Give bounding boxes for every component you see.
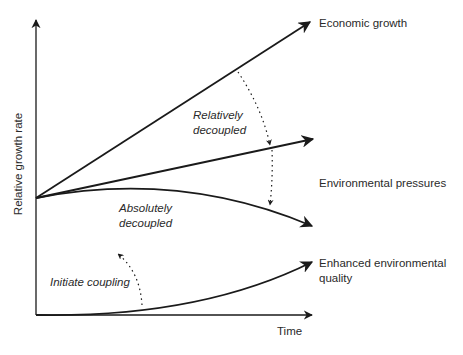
x-axis-label: Time <box>277 324 302 339</box>
relatively-decoupled-label-line2: decoupled <box>193 123 246 138</box>
enhanced-quality-label-line2: quality <box>319 271 352 286</box>
relative-pressure-curve <box>36 139 313 198</box>
economic-growth-label: Economic growth <box>319 16 407 31</box>
y-axis-label: Relative growth rate <box>12 104 24 224</box>
enhanced-quality-label-line1: Enhanced environmental <box>319 256 446 271</box>
dotted-arrow-absolute <box>270 150 272 205</box>
environmental-pressures-label: Environmental pressures <box>319 176 446 191</box>
absolutely-decoupled-label-line1: Absolutely <box>119 201 172 216</box>
initiate-coupling-label: Initiate coupling <box>50 275 130 290</box>
absolute-pressure-curve <box>36 189 312 226</box>
relatively-decoupled-label-line1: Relatively <box>193 108 243 123</box>
absolutely-decoupled-label-line2: decoupled <box>119 216 172 231</box>
economic-growth-curve <box>36 22 310 198</box>
